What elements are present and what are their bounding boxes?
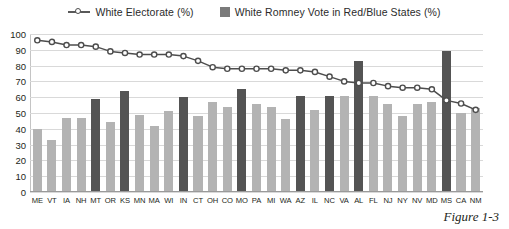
bar-oh — [208, 102, 217, 192]
x-axis-tick-label-nv: NV — [410, 194, 425, 208]
bar-mo — [237, 89, 246, 192]
x-axis-tick-label-vt: VT — [45, 194, 60, 208]
x-axis-tick-label-nm: NM — [468, 194, 483, 208]
bar-slot — [278, 34, 293, 192]
bar-slot — [88, 34, 103, 192]
bar-ms — [442, 51, 451, 192]
bar-or — [106, 122, 115, 192]
legend-label-white-electorate: White Electorate (%) — [95, 6, 193, 18]
bar-slot — [191, 34, 206, 192]
x-axis-tick-labels: MEVTIANHMTORKSMNMAWIINCTOHCOMOPAMIWAAZIL… — [30, 194, 483, 208]
x-axis-tick-label-wa: WA — [278, 194, 293, 208]
x-axis-tick-label-ms: MS — [439, 194, 454, 208]
bar-ca — [456, 113, 465, 192]
x-axis-tick-label-al: AL — [351, 194, 366, 208]
bar-slot — [468, 34, 483, 192]
bar-slot — [30, 34, 45, 192]
bar-slot — [351, 34, 366, 192]
y-axis-tick-label: 100 — [10, 29, 26, 40]
bar-pa — [252, 104, 261, 192]
bar-nh — [77, 118, 86, 192]
bar-slot — [161, 34, 176, 192]
bar-nj — [383, 104, 392, 192]
x-axis-tick-label-ca: CA — [454, 194, 469, 208]
bar-slot — [424, 34, 439, 192]
bar-slot — [235, 34, 250, 192]
x-axis-tick-label-va: VA — [337, 194, 352, 208]
bar-ma — [150, 126, 159, 192]
bar-nm — [471, 108, 480, 192]
line-open-circle-marker-icon — [68, 7, 90, 17]
bar-md — [427, 102, 436, 192]
x-axis-tick-label-mt: MT — [88, 194, 103, 208]
bar-wa — [281, 119, 290, 192]
y-axis-tick-label: 30 — [15, 139, 26, 150]
x-axis-tick-label-pa: PA — [249, 194, 264, 208]
bar-nv — [413, 104, 422, 192]
bar-ct — [193, 116, 202, 192]
x-axis-tick-label-az: AZ — [293, 194, 308, 208]
x-axis-tick-label-il: IL — [308, 194, 323, 208]
x-axis-tick-label-ny: NY — [395, 194, 410, 208]
bar-slot — [59, 34, 74, 192]
bar-mt — [91, 99, 100, 192]
y-axis-tick-label: 80 — [15, 60, 26, 71]
bar-swatch-icon — [220, 7, 230, 17]
bar-slot — [103, 34, 118, 192]
bar-slot — [220, 34, 235, 192]
x-axis-tick-label-co: CO — [220, 194, 235, 208]
bar-vt — [47, 140, 56, 192]
y-axis-tick-label: 10 — [15, 171, 26, 182]
bar-mn — [135, 115, 144, 192]
x-axis-tick-label-nj: NJ — [381, 194, 396, 208]
bar-il — [310, 110, 319, 192]
bar-mi — [267, 107, 276, 192]
bar-slot — [74, 34, 89, 192]
plot-area: 1009080706050403020100 — [30, 34, 483, 192]
x-axis-tick-label-oh: OH — [205, 194, 220, 208]
bar-slot — [381, 34, 396, 192]
bar-slot — [322, 34, 337, 192]
x-axis-tick-label-nh: NH — [74, 194, 89, 208]
bar-slot — [366, 34, 381, 192]
x-axis-tick-label-ma: MA — [147, 194, 162, 208]
bar-al — [354, 61, 363, 192]
chart-figure: White Electorate (%) White Romney Vote i… — [0, 0, 509, 229]
x-axis-tick-label-mo: MO — [235, 194, 250, 208]
x-axis-tick-label-wi: WI — [161, 194, 176, 208]
bar-wi — [164, 111, 173, 192]
legend-item-white-romney-vote: White Romney Vote in Red/Blue States (%) — [220, 6, 441, 18]
figure-caption: Figure 1-3 — [444, 209, 499, 225]
x-axis-tick-label-me: ME — [30, 194, 45, 208]
bar-me — [33, 129, 42, 192]
bar-slot — [308, 34, 323, 192]
bar-in — [179, 97, 188, 192]
x-axis-tick-label-ks: KS — [118, 194, 133, 208]
bar-az — [296, 96, 305, 192]
bar-ny — [398, 116, 407, 192]
x-axis-tick-label-fl: FL — [366, 194, 381, 208]
y-axis-tick-label: 60 — [15, 92, 26, 103]
gridline — [30, 192, 483, 193]
legend-item-white-electorate: White Electorate (%) — [68, 6, 193, 18]
bar-ks — [120, 91, 129, 192]
x-axis-tick-label-mi: MI — [264, 194, 279, 208]
bar-co — [223, 107, 232, 192]
y-axis-tick-label: 70 — [15, 76, 26, 87]
y-axis-tick-label: 50 — [15, 108, 26, 119]
bar-nc — [325, 96, 334, 192]
bar-slot — [147, 34, 162, 192]
bar-fl — [369, 96, 378, 192]
bar-ia — [62, 118, 71, 192]
y-axis-tick-label: 0 — [21, 187, 26, 198]
bar-slot — [454, 34, 469, 192]
x-axis-line — [30, 191, 483, 192]
x-axis-tick-label-md: MD — [424, 194, 439, 208]
bar-slot — [249, 34, 264, 192]
x-axis-tick-label-mn: MN — [132, 194, 147, 208]
x-axis-tick-label-ct: CT — [191, 194, 206, 208]
x-axis-tick-label-ia: IA — [59, 194, 74, 208]
bar-slot — [395, 34, 410, 192]
y-axis-tick-label: 40 — [15, 123, 26, 134]
legend-label-white-romney-vote: White Romney Vote in Red/Blue States (%) — [235, 6, 441, 18]
